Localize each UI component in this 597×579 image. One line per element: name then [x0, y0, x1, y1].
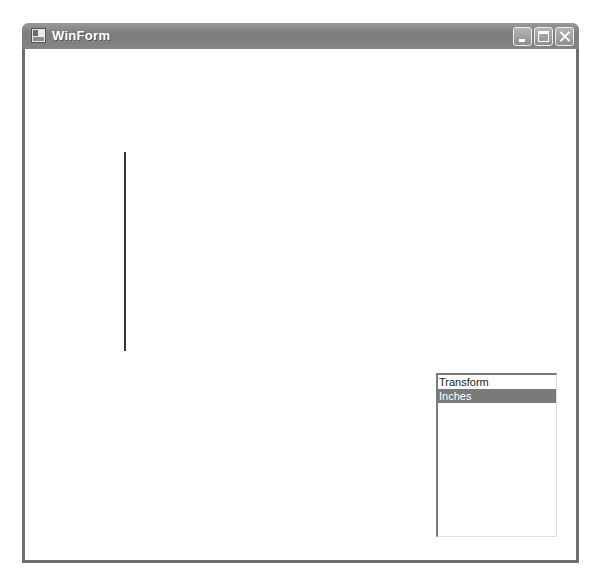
list-item-transform[interactable]: Transform	[438, 375, 556, 389]
close-button[interactable]	[555, 27, 574, 46]
main-window: WinForm Transform Inches	[22, 23, 579, 563]
title-bar[interactable]: WinForm	[22, 23, 579, 49]
drawn-vertical-line	[124, 152, 126, 351]
maximize-button[interactable]	[534, 27, 553, 46]
window-title: WinForm	[52, 28, 110, 43]
client-area: Transform Inches	[25, 49, 576, 560]
units-listbox[interactable]: Transform Inches	[436, 373, 557, 537]
minimize-button[interactable]	[513, 27, 532, 46]
app-window-icon[interactable]	[31, 28, 46, 43]
list-item-inches[interactable]: Inches	[438, 389, 556, 403]
